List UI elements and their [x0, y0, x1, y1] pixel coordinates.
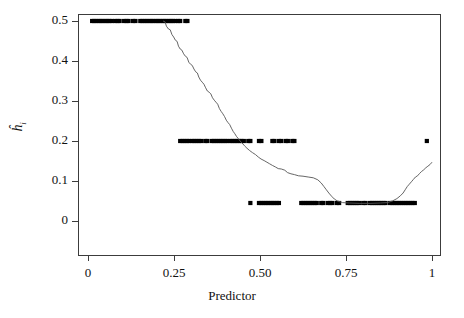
data-point — [279, 139, 283, 143]
x-tick-label: 0.25 — [149, 265, 199, 281]
leverage-plot-figure: 00.250.500.75100.10.20.30.40.5 Predictor… — [0, 0, 464, 318]
x-tick-label: 0 — [63, 265, 113, 281]
y-tick-label: 0 — [24, 212, 68, 228]
x-axis-title: Predictor — [0, 288, 464, 304]
y-tick-label: 0.3 — [24, 92, 68, 108]
data-point — [248, 201, 252, 205]
data-point — [315, 201, 319, 205]
y-axis-title-subscript: i — [18, 122, 28, 125]
data-point — [425, 139, 429, 143]
x-tick-label: 0.75 — [321, 265, 371, 281]
data-point — [277, 201, 281, 205]
data-point — [330, 201, 334, 205]
y-tick-label: 0.4 — [24, 52, 68, 68]
data-point — [185, 19, 189, 23]
data-point — [286, 139, 290, 143]
data-point — [133, 19, 137, 23]
y-tick-label: 0.5 — [24, 12, 68, 28]
data-point — [321, 201, 325, 205]
data-point — [413, 201, 417, 205]
data-point — [178, 19, 182, 23]
data-point — [292, 139, 296, 143]
y-axis-title-symbol: ĥi — [10, 122, 28, 132]
data-point — [272, 139, 276, 143]
x-tick-label: 1 — [407, 265, 457, 281]
data-point — [242, 139, 246, 143]
y-axis-title: ĥi — [10, 110, 28, 144]
y-tick-label: 0.1 — [24, 172, 68, 188]
data-point — [126, 19, 130, 23]
data-point — [118, 19, 122, 23]
y-tick-label: 0.2 — [24, 132, 68, 148]
data-point — [205, 139, 209, 143]
x-tick-label: 0.50 — [235, 265, 285, 281]
data-point — [199, 139, 203, 143]
data-point — [259, 139, 263, 143]
data-point — [248, 139, 252, 143]
